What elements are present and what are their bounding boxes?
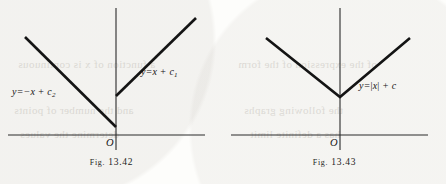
caption-prefix: Fig.	[90, 158, 105, 167]
curve-label-absolute-value: y=|x| + c	[359, 80, 396, 91]
caption-number: 13.42	[108, 157, 133, 167]
caption-prefix: Fig.	[313, 158, 328, 167]
origin-label: O	[106, 137, 114, 148]
figure-caption-13-42: Fig. 13.42	[0, 157, 223, 167]
curve-label-right-branch: y=x + c1	[141, 66, 178, 79]
figure-13-42: O y=−x + c2 y=x + c1 Fig. 13.42	[0, 0, 223, 184]
curve-right-branch	[116, 18, 196, 96]
graph-svg-13-43	[223, 0, 446, 155]
graph-svg-13-42	[0, 0, 223, 155]
origin-label: O	[330, 137, 338, 148]
curve-left-branch	[25, 37, 116, 127]
caption-number: 13.43	[331, 157, 356, 167]
curve-label-left-branch: y=−x + c2	[12, 86, 56, 99]
figure-caption-13-43: Fig. 13.43	[223, 157, 446, 167]
figure-13-43: O y=|x| + c Fig. 13.43	[223, 0, 446, 184]
